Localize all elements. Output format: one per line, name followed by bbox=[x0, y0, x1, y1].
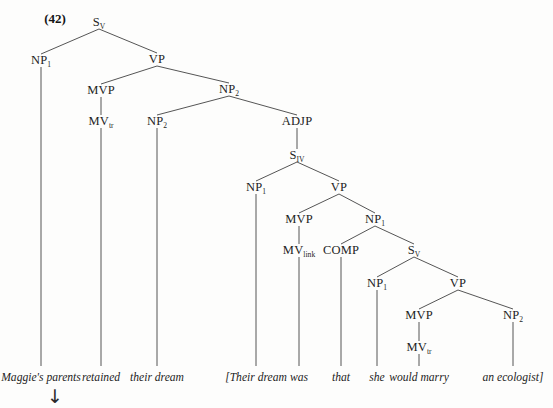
edge-np1c-comp bbox=[341, 226, 375, 244]
edge-s1-np1 bbox=[41, 29, 99, 54]
terminal-word: [Their dream bbox=[225, 372, 287, 384]
tree-node-np-2: NP2 bbox=[147, 115, 167, 128]
node-label-text: NP bbox=[503, 308, 519, 322]
edge-vp2-np1 bbox=[339, 194, 375, 213]
terminal-word: their dream bbox=[130, 372, 184, 384]
terminal-word: Maggie's parents bbox=[1, 372, 81, 384]
terminal-word: she bbox=[369, 372, 384, 384]
node-label-text: VP bbox=[149, 52, 165, 66]
tree-node-vp: VP bbox=[149, 53, 165, 66]
tree-node-mv-link: MVlink bbox=[283, 244, 315, 257]
edge-s3-vp bbox=[414, 257, 458, 277]
node-label-text: VP bbox=[450, 276, 466, 290]
terminal-word: that bbox=[332, 372, 350, 384]
tree-node-adjp: ADJP bbox=[282, 115, 313, 128]
edge-vp3-mvp bbox=[419, 290, 458, 309]
tree-node-np-1: NP1 bbox=[365, 213, 385, 226]
node-label-subscript: 2 bbox=[519, 314, 523, 323]
node-label-subscript: link bbox=[303, 249, 315, 258]
node-label-text: MV bbox=[406, 340, 427, 354]
node-label-text: ADJP bbox=[282, 114, 313, 128]
tree-node-mvp: MVP bbox=[405, 309, 433, 322]
node-label-text: MVP bbox=[87, 83, 115, 97]
tree-node-s-v: SV bbox=[93, 16, 106, 29]
node-label-subscript: 1 bbox=[381, 218, 385, 227]
tree-node-mv-tr: MVtr bbox=[88, 115, 113, 128]
tree-node-mv-tr: MVtr bbox=[406, 341, 431, 354]
tree-node-comp: COMP bbox=[323, 244, 359, 257]
edge-np2-adjp bbox=[229, 96, 297, 115]
tree-node-np-2: NP2 bbox=[219, 83, 239, 96]
tree-node-mvp: MVP bbox=[87, 84, 115, 97]
node-label-text: NP bbox=[219, 82, 235, 96]
node-label-text: VP bbox=[331, 180, 347, 194]
node-label-text: NP bbox=[147, 114, 163, 128]
node-label-subscript: IV bbox=[297, 154, 305, 163]
node-label-text: MVP bbox=[285, 212, 313, 226]
node-label-text: COMP bbox=[323, 243, 359, 257]
node-label-text: NP bbox=[246, 180, 262, 194]
tree-edges-layer bbox=[0, 0, 553, 408]
node-label-text: NP bbox=[367, 276, 383, 290]
terminal-word: retained bbox=[82, 372, 120, 384]
edge-np2-np2 bbox=[157, 96, 229, 115]
node-label-subscript: 2 bbox=[163, 120, 167, 129]
node-label-text: NP bbox=[31, 53, 47, 67]
node-label-text: MV bbox=[283, 243, 304, 257]
example-number: (42) bbox=[44, 11, 66, 27]
node-label-subscript: tr bbox=[427, 346, 432, 355]
tree-node-s-iv: SIV bbox=[289, 149, 304, 162]
edge-s3-np1 bbox=[377, 257, 414, 277]
edge-vp3-np2 bbox=[458, 290, 513, 309]
node-label-subscript: V bbox=[415, 249, 420, 258]
edge-s2-np1 bbox=[256, 162, 297, 181]
node-label-text: MV bbox=[88, 114, 109, 128]
syntax-tree-diagram: SVNP1VPMVPNP2MVtrNP2ADJPSIVNP1VPMVPNP1MV… bbox=[0, 0, 553, 408]
node-label-subscript: V bbox=[100, 21, 105, 30]
node-label-subscript: 1 bbox=[383, 282, 387, 291]
edge-vp2-mvp bbox=[299, 194, 339, 213]
edge-s2-vp bbox=[297, 162, 339, 181]
tree-node-s-v: SV bbox=[408, 244, 421, 257]
tree-node-np-1: NP1 bbox=[31, 54, 51, 67]
tree-node-vp: VP bbox=[450, 277, 466, 290]
terminal-word: would marry bbox=[389, 372, 449, 384]
edge-np1c-s3 bbox=[375, 226, 414, 244]
node-label-subscript: tr bbox=[109, 120, 114, 129]
node-label-subscript: 1 bbox=[47, 59, 51, 68]
terminal-word: was bbox=[290, 372, 308, 384]
terminal-word: an ecologist] bbox=[483, 372, 544, 384]
tree-node-mvp: MVP bbox=[285, 213, 313, 226]
node-label-subscript: 1 bbox=[262, 186, 266, 195]
tree-node-np-2: NP2 bbox=[503, 309, 523, 322]
tree-node-np-1: NP1 bbox=[246, 181, 266, 194]
tree-node-vp: VP bbox=[331, 181, 347, 194]
edge-s1-vp bbox=[99, 29, 157, 53]
node-label-text: NP bbox=[365, 212, 381, 226]
downward-arrow-icon: ↓ bbox=[47, 387, 63, 406]
edge-vp-np2 bbox=[157, 66, 229, 83]
node-label-subscript: 2 bbox=[235, 88, 239, 97]
tree-node-np-1: NP1 bbox=[367, 277, 387, 290]
node-label-text: MVP bbox=[405, 308, 433, 322]
edge-vp-mvp bbox=[101, 66, 157, 84]
